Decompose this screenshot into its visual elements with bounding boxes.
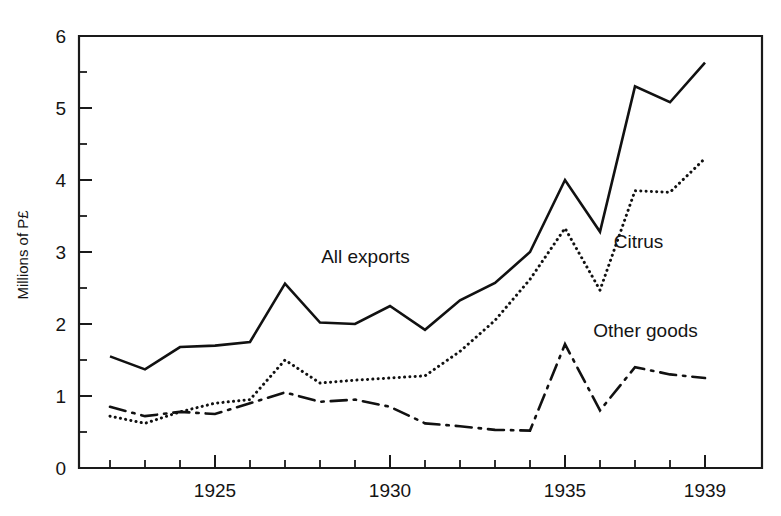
y-axis-title: Millions of P£	[14, 210, 31, 300]
y-tick-label: 5	[55, 98, 66, 119]
x-tick-label: 1935	[544, 480, 586, 501]
y-tick-label: 6	[55, 26, 66, 47]
chart-canvas: 0123456 1925193019351939 All exportsCitr…	[0, 0, 781, 516]
series-label-other-goods: Other goods	[593, 320, 698, 341]
series-label-citrus: Citrus	[614, 231, 664, 252]
x-axis: 1925193019351939	[110, 455, 726, 501]
y-tick-label: 4	[55, 170, 66, 191]
y-tick-label: 3	[55, 242, 66, 263]
y-axis: 0123456	[55, 26, 92, 479]
y-tick-label: 0	[55, 458, 66, 479]
x-tick-label: 1925	[194, 480, 236, 501]
x-tick-label: 1939	[684, 480, 726, 501]
series-annotations: All exportsCitrusOther goods	[321, 231, 698, 341]
series-line-other-goods	[110, 344, 705, 430]
series-line-citrus	[110, 158, 705, 423]
line-chart-figure: 0123456 1925193019351939 All exportsCitr…	[0, 0, 781, 516]
x-tick-label: 1930	[369, 480, 411, 501]
y-tick-label: 2	[55, 314, 66, 335]
y-tick-label: 1	[55, 386, 66, 407]
series-label-all-exports: All exports	[321, 246, 410, 267]
